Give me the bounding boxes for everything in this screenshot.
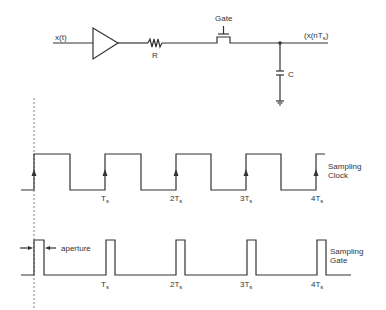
- sampling-gate-label-line2: Gate: [330, 256, 348, 265]
- rising-edge-arrow-icon: [32, 169, 37, 176]
- rising-edge-arrow-icon: [103, 169, 108, 176]
- aperture-label: aperture: [61, 244, 91, 253]
- rising-edge-arrow-icon: [314, 169, 319, 176]
- gate-tick-label: Ts: [101, 280, 109, 290]
- gate-tick-label: 4Ts: [311, 280, 323, 290]
- rising-edge-arrow-icon: [244, 169, 249, 176]
- clock-tick-label: 4Ts: [311, 194, 323, 204]
- resistor-icon: [148, 39, 162, 47]
- capacitor-label: C: [288, 70, 294, 79]
- buffer-amplifier-icon: [93, 28, 118, 59]
- circuit-schematic: x(t) R Gate (x(nTs) C: [53, 14, 329, 105]
- sampling-clock-label-line1: Sampling: [328, 162, 361, 171]
- aperture-arrow-right-icon: [28, 246, 33, 250]
- gate-switch-icon: [214, 26, 234, 43]
- input-label: x(t): [55, 33, 67, 42]
- sampling-gate-label-line1: Sampling: [330, 247, 363, 256]
- rising-edge-arrow-icon: [174, 169, 179, 176]
- gate-tick-label: 3Ts: [240, 280, 252, 290]
- ground-icon: [276, 101, 284, 105]
- sample-and-hold-diagram: x(t) R Gate (x(nTs) C: [0, 0, 386, 310]
- gate-label: Gate: [215, 14, 233, 23]
- sampling-gate-waveform: aperture Ts 2Ts 3Ts 4Ts Sampling Gate: [20, 240, 363, 290]
- sampling-clock-label-line2: Clock: [328, 171, 349, 180]
- gate-tick-label: 2Ts: [170, 280, 182, 290]
- clock-tick-label: Ts: [101, 194, 109, 204]
- aperture-arrow-left-icon: [45, 246, 50, 250]
- resistor-label: R: [152, 51, 158, 60]
- output-label: (x(nTs): [304, 31, 329, 41]
- sampling-clock-waveform: Ts 2Ts 3Ts 4Ts Sampling Clock: [21, 154, 361, 204]
- clock-tick-label: 2Ts: [170, 194, 182, 204]
- clock-tick-label: 3Ts: [240, 194, 252, 204]
